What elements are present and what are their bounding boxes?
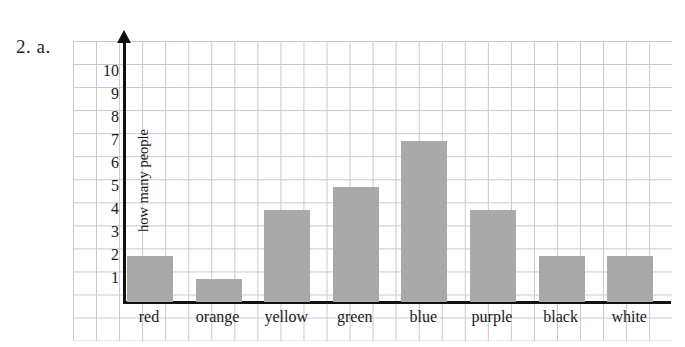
bar-purple: [470, 210, 516, 302]
y-axis-tick-4: 4: [93, 201, 119, 217]
bar-red: [127, 256, 173, 302]
bar-green: [333, 187, 379, 302]
y-axis-tick-10: 10: [93, 63, 119, 79]
x-axis-label-white: white: [598, 306, 660, 328]
y-axis-tick-7: 7: [93, 132, 119, 148]
y-axis-tick-5: 5: [93, 178, 119, 194]
x-axis-label-blue: blue: [392, 306, 454, 328]
x-axis-category-labels: redorangeyellowgreenbluepurpleblackwhite: [126, 306, 671, 332]
x-axis-label-red: red: [118, 306, 180, 328]
y-axis-tick-8: 8: [93, 109, 119, 125]
x-axis-label-yellow: yellow: [255, 306, 317, 328]
y-axis-tick-1: 1: [93, 270, 119, 286]
exercise-number-label: 2. a.: [16, 36, 51, 58]
x-axis-label-green: green: [324, 306, 386, 328]
bar-black: [539, 256, 585, 302]
bar-orange: [196, 279, 242, 302]
y-axis-tick-6: 6: [93, 155, 119, 171]
bar-white: [607, 256, 653, 302]
y-axis-tick-2: 2: [93, 247, 119, 263]
x-axis-label-orange: orange: [187, 306, 249, 328]
bar-series: [126, 36, 671, 302]
x-axis-label-purple: purple: [461, 306, 523, 328]
bar-yellow: [264, 210, 310, 302]
y-axis-tick-9: 9: [93, 86, 119, 102]
y-axis-tick-labels: 12345678910: [85, 36, 119, 304]
y-axis-tick-3: 3: [93, 224, 119, 240]
x-axis-label-black: black: [530, 306, 592, 328]
bar-blue: [401, 141, 447, 302]
